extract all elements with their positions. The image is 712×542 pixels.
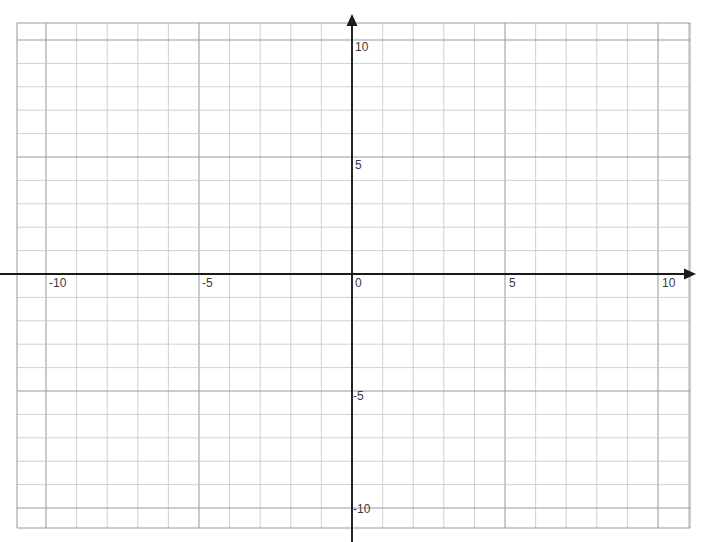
y-tick-label-neg-five: -5 <box>353 390 364 402</box>
coordinate-grid-page: -10 -5 0 5 10 10 5 -5 -10 <box>0 0 712 542</box>
x-tick-label-neg-ten: -10 <box>49 277 66 289</box>
x-tick-label-pos-ten: 10 <box>662 277 675 289</box>
grid-lines-group <box>17 23 690 528</box>
y-tick-label-neg-ten: -10 <box>353 503 370 515</box>
origin-label: 0 <box>355 277 362 289</box>
y-tick-label-pos-five: 5 <box>355 159 362 171</box>
axis-lines-group <box>0 14 696 542</box>
y-axis-arrow-icon <box>347 14 358 26</box>
y-tick-label-pos-ten: 10 <box>355 41 368 53</box>
x-tick-label-pos-five: 5 <box>509 277 516 289</box>
x-tick-label-neg-five: -5 <box>202 277 213 289</box>
coordinate-plane-svg <box>0 0 712 542</box>
